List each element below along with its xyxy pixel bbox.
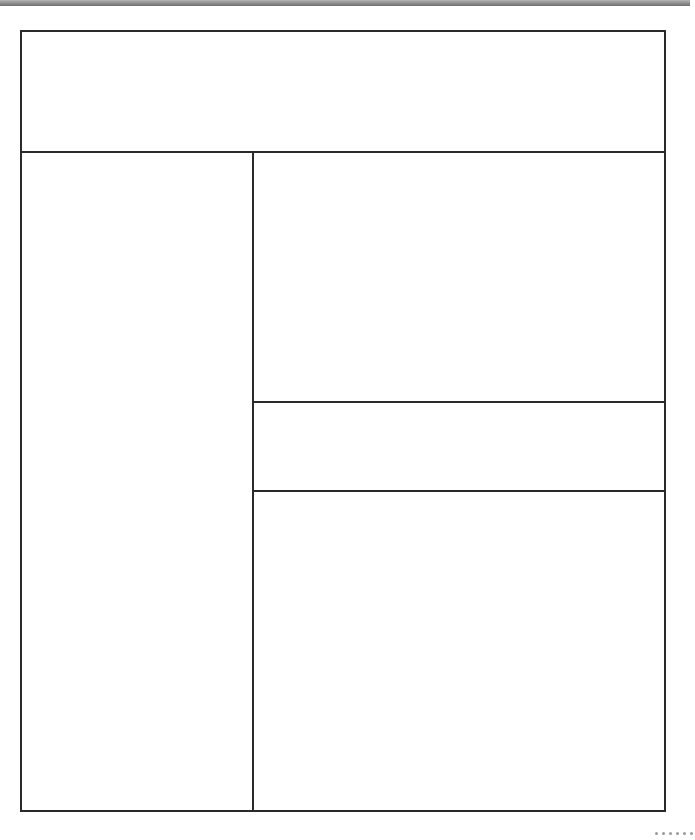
sidebar-region [22, 153, 254, 810]
grip-dot [655, 832, 658, 835]
grip-dot [683, 832, 686, 835]
wireframe-outer-frame [20, 30, 666, 812]
main-bottom-region [254, 492, 664, 810]
main-top-region [254, 155, 664, 403]
grip-dot [662, 832, 665, 835]
grip-dot [669, 832, 672, 835]
header-region [22, 32, 664, 153]
resize-grip-icon[interactable] [655, 832, 693, 835]
main-middle-region [254, 403, 664, 492]
window-top-bar [0, 0, 690, 6]
grip-dot [676, 832, 679, 835]
grip-dot [690, 832, 693, 835]
